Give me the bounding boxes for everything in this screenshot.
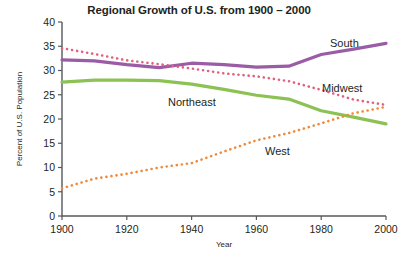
y-axis-tick-label: 40 bbox=[43, 16, 55, 28]
x-axis-tick-label: 1900 bbox=[50, 223, 74, 235]
x-axis-tick-label: 1980 bbox=[310, 223, 334, 235]
x-axis-tick-label: 2000 bbox=[374, 223, 398, 235]
series-line-west bbox=[62, 107, 386, 188]
x-axis-tick-label: 1920 bbox=[115, 223, 139, 235]
x-axis-title: Year bbox=[216, 240, 233, 249]
y-axis-tick-label: 0 bbox=[49, 210, 55, 222]
series-label-northeast: Northeast bbox=[168, 96, 216, 108]
y-axis-tick-label: 25 bbox=[43, 89, 55, 101]
x-axis-tick-label: 1940 bbox=[180, 223, 204, 235]
y-axis-tick-label: 30 bbox=[43, 64, 55, 76]
chart-container: Regional Growth of U.S. from 1900 – 2000… bbox=[0, 0, 398, 267]
series-label-south: South bbox=[330, 37, 359, 49]
y-axis-tick-label: 15 bbox=[43, 137, 55, 149]
y-axis-title: Percent of U.S. Population bbox=[15, 72, 24, 166]
series-label-west: West bbox=[265, 145, 290, 157]
y-axis-tick-label: 20 bbox=[43, 113, 55, 125]
series-label-midwest: Midwest bbox=[322, 82, 362, 94]
y-axis-tick-label: 35 bbox=[43, 40, 55, 52]
line-chart-plot: 0510152025303540190019201940196019802000… bbox=[0, 0, 398, 267]
y-axis-tick-label: 5 bbox=[49, 186, 55, 198]
series-line-midwest bbox=[62, 48, 386, 105]
y-axis-tick-label: 10 bbox=[43, 161, 55, 173]
x-axis-tick-label: 1960 bbox=[245, 223, 269, 235]
